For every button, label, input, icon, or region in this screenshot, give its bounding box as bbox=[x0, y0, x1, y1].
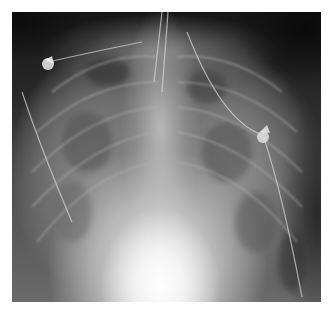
anatomy-overlay bbox=[12, 12, 321, 302]
chest-xray-image bbox=[12, 12, 321, 302]
ecg-electrode-left-icon bbox=[42, 56, 54, 70]
ecg-electrode-right-icon bbox=[257, 125, 270, 143]
monitoring-leads bbox=[22, 12, 302, 297]
